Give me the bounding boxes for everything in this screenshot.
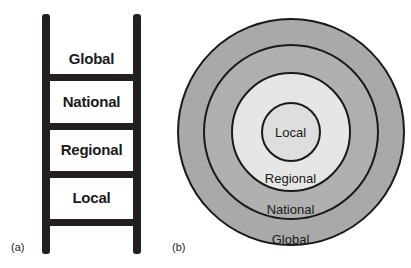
ladder-step-label-regional: Regional <box>42 142 141 157</box>
caption-panel-a: (a) <box>11 242 24 253</box>
panel-concentric-circles: Local Regional National Global <box>170 0 411 268</box>
ring-label-global: Global <box>170 233 411 246</box>
caption-panel-b: (b) <box>172 242 185 253</box>
ladder-rung-3 <box>42 171 141 178</box>
ladder-rung-4 <box>42 219 141 226</box>
ladder-rail-left <box>42 14 50 254</box>
ladder-step-label-local: Local <box>42 190 141 205</box>
ladder-step-label-global: Global <box>42 51 141 66</box>
scale-hierarchy-figure: Global National Regional Local Local Reg… <box>0 0 411 268</box>
ladder-rail-right <box>133 14 141 254</box>
ring-label-regional: Regional <box>170 172 411 185</box>
ring-label-local: Local <box>170 126 411 139</box>
ladder-rung-2 <box>42 123 141 130</box>
ladder-rung-1 <box>42 74 141 81</box>
ring-label-national: National <box>170 203 411 216</box>
panel-ladder: Global National Regional Local <box>0 0 180 268</box>
ladder-step-label-national: National <box>42 94 141 109</box>
